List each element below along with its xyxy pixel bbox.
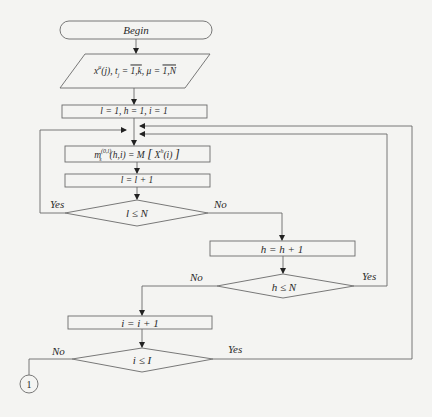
inc-i-label: i = i + 1	[121, 318, 158, 329]
cond-l-no-label: No	[214, 199, 227, 210]
compute-m-sub: s	[99, 155, 101, 161]
input-range-k: 1,k	[130, 66, 141, 76]
cond-i-no-label: No	[52, 346, 65, 357]
input-range-n: 1,N	[163, 66, 176, 76]
input-label: xμ(j), tj = 1,k, μ = 1,N	[94, 64, 176, 77]
compute-right-bracket: ]	[175, 146, 180, 161]
compute-label: m(0,l)s(h,i) = M [ Xh(i) ]	[94, 147, 180, 162]
inc-l-label: l = l + 1	[121, 176, 153, 186]
input-var-x-arg: (j),	[101, 66, 112, 76]
input-sep: , μ =	[142, 66, 163, 76]
cond-l-label: l ≤ N	[126, 208, 148, 219]
cond-h-yes-label: Yes	[362, 271, 376, 282]
cond-l-yes-label: Yes	[50, 199, 64, 210]
compute-x-arg: (i)	[163, 150, 172, 160]
begin-label: Begin	[123, 25, 149, 36]
cond-h-label: h ≤ N	[272, 282, 296, 293]
cond-h-no-label: No	[190, 272, 203, 283]
input-eq: =	[119, 66, 130, 76]
connector-label: 1	[27, 379, 32, 390]
init-label: l = 1, h = 1, i = 1	[100, 107, 167, 117]
compute-left-bracket: [	[147, 146, 152, 161]
compute-args: (h,i) = M	[110, 150, 145, 160]
cond-i-label: i ≤ I	[133, 355, 151, 366]
cond-i-yes-label: Yes	[228, 344, 242, 355]
inc-h-label: h = h + 1	[261, 244, 303, 255]
